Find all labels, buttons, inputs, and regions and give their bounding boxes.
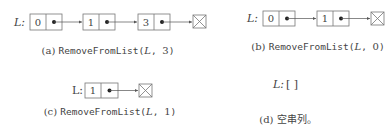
caption-suffix: ): [171, 106, 177, 117]
svg-text:3: 3: [143, 17, 149, 28]
caption-text: 空串列。: [277, 114, 317, 125]
null-icon: [139, 84, 152, 97]
caption-c: (c) RemoveFromList(L, 1): [44, 106, 177, 117]
svg-text:1: 1: [88, 17, 94, 28]
caption-d: (d) 空串列。: [259, 111, 316, 126]
caption-func: RemoveFromList(: [60, 106, 146, 117]
caption-sep: ,: [361, 41, 372, 52]
panel-c-list: L: 1: [72, 83, 152, 98]
caption-arg: L: [355, 41, 362, 52]
svg-text:0: 0: [35, 17, 41, 28]
list-label: L:: [272, 78, 284, 91]
panel-b-list: L: 0 1: [246, 11, 384, 26]
caption-prefix: (c): [44, 106, 57, 117]
caption-suffix: ): [169, 45, 175, 56]
svg-text:1: 1: [322, 13, 328, 24]
caption-prefix: (b): [251, 41, 265, 52]
svg-text:0: 0: [268, 13, 274, 24]
panel-d-list: L: [ ]: [272, 78, 298, 91]
caption-b: (b) RemoveFromList(L, 0): [251, 41, 384, 52]
caption-sep: ,: [153, 106, 164, 117]
null-icon: [371, 12, 384, 25]
caption-a: (a) RemoveFromList(L, 3): [42, 45, 175, 56]
caption-func: RemoveFromList(: [58, 45, 144, 56]
panel-a-list: L: 0 1 3: [13, 14, 206, 30]
list-label: L:: [72, 84, 83, 97]
list-label: L:: [246, 12, 258, 25]
empty-list: [ ]: [286, 78, 298, 91]
null-icon: [193, 15, 206, 28]
caption-suffix: ): [379, 41, 385, 52]
caption-prefix: (a): [42, 45, 56, 56]
list-label: L:: [13, 16, 25, 29]
caption-sep: ,: [151, 45, 162, 56]
caption-func: RemoveFromList(: [269, 41, 355, 52]
svg-text:1: 1: [90, 85, 96, 96]
caption-prefix: (d): [259, 114, 273, 125]
